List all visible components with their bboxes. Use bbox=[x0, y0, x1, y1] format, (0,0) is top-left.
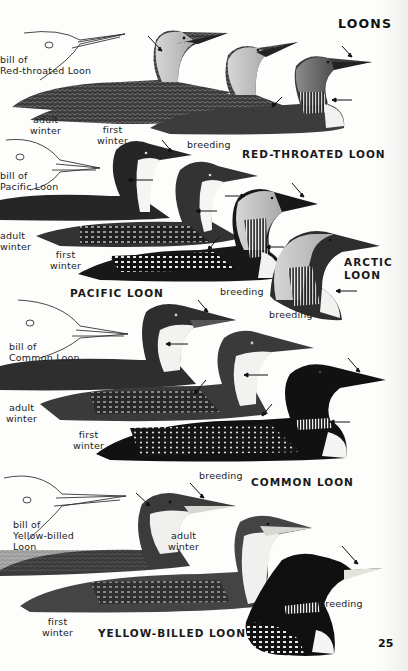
yellow-billed-first-winter-label: first winter bbox=[42, 616, 73, 638]
pacific-bill-label: bill of Pacific Loon bbox=[0, 170, 58, 192]
plumage-label-line: adult bbox=[168, 530, 199, 541]
page-heading: LOONS bbox=[338, 16, 392, 31]
bill-label-line: bill of bbox=[9, 341, 80, 352]
species-name-red-throated: RED-THROATED LOON bbox=[242, 148, 386, 160]
plumage-label-line: adult bbox=[0, 230, 31, 241]
plumage-label-line: first bbox=[73, 429, 104, 440]
plumage-label-line: winter bbox=[30, 125, 61, 136]
bill-label-line: bill of bbox=[0, 170, 58, 181]
plumage-label-line: winter bbox=[97, 135, 128, 146]
plumage-label-line: winter bbox=[73, 440, 104, 451]
plumage-label-line: first bbox=[97, 124, 128, 135]
species-name-line: LOON bbox=[344, 269, 393, 282]
plumage-label-line: winter bbox=[0, 241, 31, 252]
bill-label-line: Red-throated Loon bbox=[0, 65, 91, 76]
species-name-common: COMMON LOON bbox=[251, 476, 354, 488]
red-throated-first-winter-label: first winter bbox=[97, 124, 128, 146]
bill-label-line: bill of bbox=[13, 519, 74, 530]
plumage-label-line: first bbox=[50, 249, 81, 260]
bill-label-line: Yellow-billed bbox=[13, 530, 74, 541]
plumage-label-line: adult bbox=[6, 402, 37, 413]
pacific-first-winter-label: first winter bbox=[50, 249, 81, 271]
bill-label-line: Loon bbox=[13, 541, 74, 552]
species-name-pacific: PACIFIC LOON bbox=[70, 287, 164, 299]
red-throated-breeding-label: breeding bbox=[187, 139, 231, 150]
pacific-adult-winter-label: adult winter bbox=[0, 230, 31, 252]
red-throated-adult-winter-label: adult winter bbox=[30, 114, 61, 136]
page-number: 25 bbox=[378, 637, 393, 650]
species-name-arctic: ARCTIC LOON bbox=[344, 256, 393, 282]
plumage-label-line: winter bbox=[168, 541, 199, 552]
yellow-billed-adult-winter-label: adult winter bbox=[168, 530, 199, 552]
common-first-winter-label: first winter bbox=[73, 429, 104, 451]
plumage-label-line: adult bbox=[30, 114, 61, 125]
common-breeding-label: breeding bbox=[199, 470, 243, 481]
yellow-billed-breeding-label: breeding bbox=[319, 598, 363, 609]
plumage-label-line: winter bbox=[42, 627, 73, 638]
bill-label-line: bill of bbox=[0, 54, 91, 65]
species-name-line: ARCTIC bbox=[344, 256, 393, 269]
bill-label-line: Common Loon bbox=[9, 352, 80, 363]
plumage-label-line: winter bbox=[6, 413, 37, 424]
common-adult-winter-label: adult winter bbox=[6, 402, 37, 424]
plumage-label-line: winter bbox=[50, 260, 81, 271]
pacific-breeding-label: breeding bbox=[220, 286, 264, 297]
common-bill-label: bill of Common Loon bbox=[9, 341, 80, 363]
yellow-billed-bill-label: bill of Yellow-billed Loon bbox=[13, 519, 74, 552]
loon-illustrations bbox=[0, 0, 408, 671]
red-throated-bill-label: bill of Red-throated Loon bbox=[0, 54, 91, 76]
plumage-label-line: first bbox=[42, 616, 73, 627]
bill-label-line: Pacific Loon bbox=[0, 181, 58, 192]
field-guide-page: LOONS bill of Red-throated Loon adult wi… bbox=[0, 0, 408, 671]
arctic-breeding-label: breeding bbox=[269, 309, 313, 320]
page-edge-shadow bbox=[380, 0, 408, 671]
species-name-yellow-billed: YELLOW-BILLED LOON bbox=[98, 627, 246, 639]
